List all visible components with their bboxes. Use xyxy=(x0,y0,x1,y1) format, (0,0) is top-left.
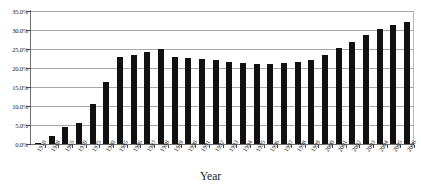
y-tick-label: 0.0% xyxy=(2,141,28,148)
bar xyxy=(213,60,219,144)
y-tick-mark xyxy=(26,144,31,145)
bar xyxy=(117,57,123,144)
y-tick-mark xyxy=(26,106,31,107)
y-tick-label: 20.0% xyxy=(2,65,28,72)
bar xyxy=(199,59,205,144)
bar xyxy=(322,55,328,144)
y-axis-labels: 0.0%5.0%10.0%15.0%20.0%25.0%30.0%35.0% xyxy=(0,0,28,189)
y-tick-label: 15.0% xyxy=(2,84,28,91)
bar xyxy=(295,62,301,144)
bar xyxy=(349,42,355,144)
gridline xyxy=(31,87,414,88)
gridline xyxy=(31,30,414,31)
gridline xyxy=(31,106,414,107)
gridline xyxy=(31,11,414,12)
bar xyxy=(404,22,410,144)
bar xyxy=(90,104,96,144)
gridline xyxy=(31,68,414,69)
bar xyxy=(158,49,164,144)
plot-area xyxy=(31,11,414,144)
y-tick-label: 25.0% xyxy=(2,46,28,53)
x-axis-title: Year xyxy=(0,170,421,182)
y-tick-label: 35.0% xyxy=(2,8,28,15)
bar xyxy=(308,60,314,144)
y-tick-mark xyxy=(26,30,31,31)
y-tick-label: 10.0% xyxy=(2,103,28,110)
bar xyxy=(281,63,287,144)
gridline xyxy=(31,125,414,126)
bar xyxy=(226,62,232,144)
y-tick-mark xyxy=(26,125,31,126)
bar xyxy=(363,35,369,144)
bar xyxy=(103,82,109,144)
chart-title xyxy=(0,0,421,2)
bar xyxy=(267,64,273,144)
bar xyxy=(390,25,396,144)
bar xyxy=(131,55,137,144)
bar xyxy=(172,57,178,144)
bar xyxy=(336,48,342,144)
bar xyxy=(144,52,150,144)
y-tick-mark xyxy=(26,11,31,12)
y-tick-mark xyxy=(26,49,31,50)
y-tick-mark xyxy=(26,68,31,69)
bar xyxy=(377,29,383,144)
bar xyxy=(240,63,246,144)
y-tick-label: 5.0% xyxy=(2,122,28,129)
y-tick-mark xyxy=(26,87,31,88)
bar xyxy=(185,58,191,144)
chart-page: 0.0%5.0%10.0%15.0%20.0%25.0%30.0%35.0% Y… xyxy=(0,0,421,189)
y-tick-label: 30.0% xyxy=(2,27,28,34)
bar xyxy=(254,64,260,144)
gridline xyxy=(31,49,414,50)
